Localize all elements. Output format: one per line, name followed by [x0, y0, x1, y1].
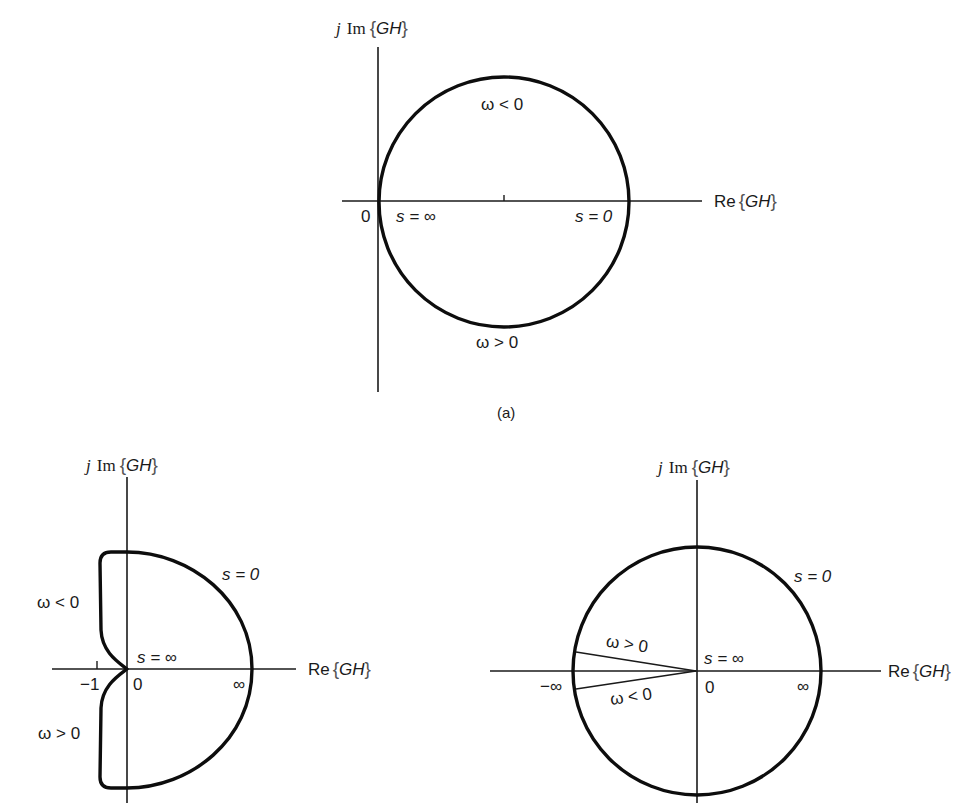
omega-positive-label: ω > 0 — [476, 333, 518, 352]
s-infinity-label: s = ∞ — [137, 648, 177, 667]
real-axis-label: Re{GH} — [714, 190, 777, 211]
imag-axis-label: jIm{GH} — [84, 454, 158, 475]
panel-c: jIm{GH} Re{GH} s = 0 ω > 0 s = ∞ −∞ 0 ∞ … — [490, 456, 951, 803]
nyquist-diagram-figure: jIm{GH} Re{GH} ω < 0 0 s = ∞ s = 0 ω > 0… — [0, 0, 974, 803]
omega-negative-label: ω < 0 — [481, 95, 523, 114]
origin-label: 0 — [133, 675, 142, 694]
minus-one-label: −1 — [80, 675, 99, 694]
s-zero-label: s = 0 — [794, 567, 832, 586]
s-zero-label: s = 0 — [575, 207, 613, 226]
nyquist-curve — [100, 552, 252, 788]
infinity-label: ∞ — [797, 677, 809, 696]
panel-b: jIm{GH} Re{GH} s = 0 ω < 0 s = ∞ −1 0 ∞ … — [37, 454, 371, 803]
s-zero-label: s = 0 — [222, 565, 260, 584]
infinity-label: ∞ — [233, 675, 245, 694]
nyquist-circle — [379, 77, 629, 327]
omega-negative-label: ω < 0 — [37, 593, 79, 612]
minus-infinity-label: −∞ — [540, 677, 562, 696]
origin-label: 0 — [705, 678, 714, 697]
imag-axis-label: jIm{GH} — [656, 456, 730, 477]
s-infinity-label: s = ∞ — [396, 207, 436, 226]
origin-label: 0 — [361, 207, 370, 226]
omega-negative-label: ω < 0 — [609, 684, 653, 709]
s-infinity-label: s = ∞ — [704, 649, 744, 668]
omega-positive-label: ω > 0 — [38, 724, 80, 743]
real-axis-label: Re{GH} — [888, 660, 951, 681]
panel-a: jIm{GH} Re{GH} ω < 0 0 s = ∞ s = 0 ω > 0… — [334, 17, 777, 421]
caption-a: (a) — [497, 404, 515, 421]
imag-axis-label: jIm{GH} — [334, 17, 408, 38]
omega-positive-label: ω > 0 — [605, 632, 649, 657]
real-axis-label: Re{GH} — [308, 658, 371, 679]
